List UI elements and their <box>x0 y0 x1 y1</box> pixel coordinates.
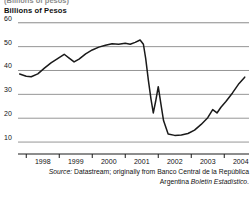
x-tick-label: 1998 <box>28 158 58 165</box>
y-tick-label: 40 <box>4 62 12 69</box>
figure-container: (Billions of pesos) Billions of Pesos 60… <box>0 0 252 197</box>
x-tick-label: 2002 <box>160 158 190 165</box>
source-publication: Boletín Estadístico <box>191 178 247 185</box>
source-text: Datastream; originally from Banco Centra… <box>72 168 249 175</box>
x-tick-label: 2000 <box>94 158 124 165</box>
source-note-line2: Argentina Boletín Estadístico. <box>160 178 249 185</box>
x-tick-label: 1999 <box>61 158 91 165</box>
source-note-line1: Source: Datastream; originally from Banc… <box>49 168 249 175</box>
y-tick-label: 60 <box>4 15 12 22</box>
y-tick-label: 30 <box>4 86 12 93</box>
plot-area <box>0 16 252 156</box>
x-tick-label: 2003 <box>193 158 223 165</box>
source-country: Argentina <box>160 178 191 185</box>
source-period: . <box>247 178 249 185</box>
y-tick-label: 50 <box>4 39 12 46</box>
x-tick-label: 2004 <box>226 158 252 165</box>
y-tick-label: 10 <box>4 134 12 141</box>
data-line-deposits <box>20 40 245 135</box>
line-chart-svg <box>0 16 252 158</box>
y-tick-label: 20 <box>4 110 12 117</box>
source-label: Source: <box>49 168 72 175</box>
x-tick-label: 2001 <box>127 158 157 165</box>
chart-subtitle: Billions of Pesos <box>4 6 67 15</box>
